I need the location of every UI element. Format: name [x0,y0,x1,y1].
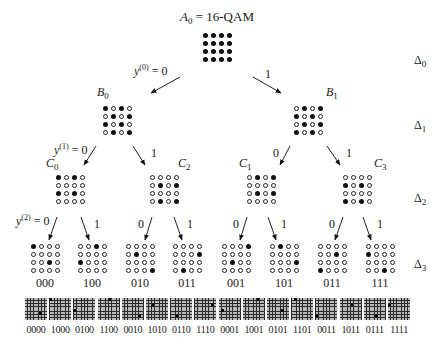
delta-2: Δ2 [414,192,426,207]
hollow-point [111,106,116,111]
hollow-point [342,268,347,273]
hollow-point [270,244,275,249]
hollow-point [197,260,202,265]
branch-label-1-b1: 1 [346,147,352,159]
filled-point [310,114,315,119]
hollow-point [270,268,275,273]
hollow-point [390,268,395,273]
hollow-point [39,252,44,257]
filled-point [219,49,224,54]
hollow-point [166,191,171,196]
constellation-001 [220,242,252,274]
hollow-point [302,130,307,135]
leaf-code: 1101 [289,324,315,335]
label-c1: C1 [239,157,252,172]
branch-label-1-b0: 1 [151,147,157,159]
branch-label-y0: y(0) = 0 [134,64,167,77]
hollow-point [78,244,83,249]
hollow-point [286,252,291,257]
hollow-point [150,183,155,188]
hollow-point [166,175,171,180]
hollow-point [326,260,331,265]
hollow-point [189,268,194,273]
filled-point [366,252,371,257]
hollow-point [390,252,395,257]
hollow-point [94,260,99,265]
hollow-point [286,244,291,249]
hollow-point [294,252,299,257]
delta-0: Δ0 [414,54,426,69]
filled-point [227,41,232,46]
filled-point [255,191,260,196]
leaf-constellation [243,298,265,320]
hollow-point [310,122,315,127]
code-011: 011 [173,276,201,291]
branch-label-1-c3: 1 [377,218,383,230]
hollow-point [278,260,283,265]
filled-point [227,57,232,62]
leaf-code: 0000 [23,324,49,335]
hollow-point [134,244,139,249]
hollow-point [271,183,276,188]
filled-point [255,175,260,180]
hollow-point [86,260,91,265]
code-001: 001 [222,276,250,291]
filled-point [294,130,299,135]
hollow-point [127,106,132,111]
hollow-point [102,252,107,257]
constellation-011 [171,242,203,274]
label-c3: C3 [374,157,387,172]
hollow-point [39,260,44,265]
leaf-constellation [219,298,241,320]
hollow-point [64,175,69,180]
filled-point [294,114,299,119]
hollow-point [342,252,347,257]
filled-point [294,260,299,265]
hollow-point [94,268,99,273]
hollow-point [278,252,283,257]
hollow-point [189,252,194,257]
label-b1: B1 [326,86,338,101]
hollow-point [181,252,186,257]
filled-point [211,41,216,46]
hollow-point [197,268,202,273]
hollow-point [64,199,69,204]
hollow-point [374,244,379,249]
branch-label-0-c2: 0 [138,218,144,230]
hollow-point [134,268,139,273]
hollow-point [263,191,268,196]
filled-point [181,268,186,273]
hollow-point [222,244,227,249]
hollow-point [294,268,299,273]
hollow-point [351,183,356,188]
label-c0: C0 [46,157,59,172]
code-010: 010 [126,276,154,291]
hollow-point [343,175,348,180]
leaf-code: 1100 [96,324,122,335]
filled-point [72,191,77,196]
hollow-point [222,252,227,257]
filled-point [111,114,116,119]
filled-point [127,114,132,119]
constellation-c0 [54,173,86,205]
hollow-point [31,268,36,273]
hollow-point [222,268,227,273]
hollow-point [326,268,331,273]
leaf-constellation [267,298,289,320]
branch-label-1-root: 1 [265,68,271,80]
constellation-100 [76,242,108,274]
leaf-constellation [170,298,192,320]
hollow-point [367,191,372,196]
hollow-point [342,244,347,249]
hollow-point [270,252,275,257]
hollow-point [230,244,235,249]
filled-point [359,183,364,188]
hollow-point [142,244,147,249]
filled-point [150,268,155,273]
hollow-point [318,244,323,249]
hollow-point [47,252,52,257]
branch-label-1-c1: 1 [281,218,287,230]
leaf-code: 0101 [265,324,291,335]
hollow-point [150,252,155,257]
hollow-point [174,175,179,180]
